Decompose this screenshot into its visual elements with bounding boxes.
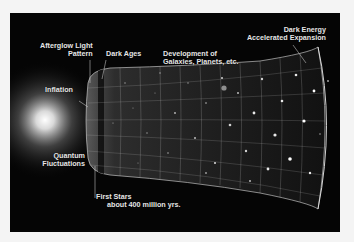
label-development-of-galaxies: Development of Galaxies, Planets, etc. [163, 50, 239, 66]
label-quantum-fluctuations: Quantum Fluctuations [40, 152, 85, 168]
label-first-stars: First Stars about 400 million yrs. [96, 193, 181, 209]
dark-ages-band [98, 63, 104, 183]
label-inflation: Inflation [45, 86, 73, 94]
label-dark-ages: Dark Ages [106, 50, 141, 58]
label-dark-energy: Dark Energy Accelerated Expansion [232, 26, 326, 42]
label-afterglow-light-pattern: Afterglow Light Pattern [40, 42, 93, 58]
universe-timeline-diagram: Afterglow Light Pattern Dark Ages Develo… [10, 13, 340, 232]
